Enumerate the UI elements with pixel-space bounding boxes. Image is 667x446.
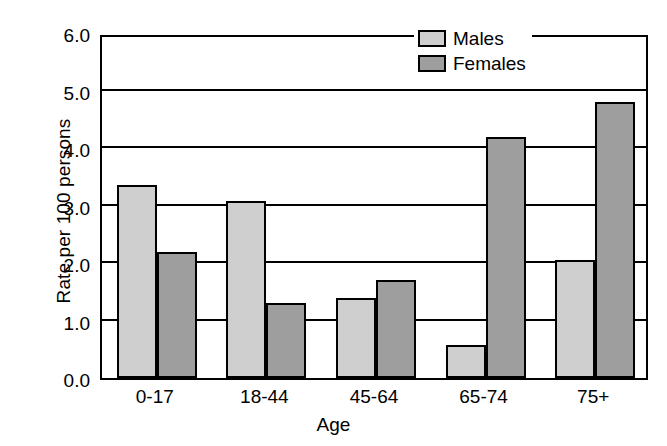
- bar-group: [102, 37, 212, 378]
- y-tick-label: 6.0: [38, 26, 90, 45]
- bar-chart: Rate per 100 persons 0.01.02.03.04.05.06…: [0, 0, 667, 446]
- bar-males-0-17: [117, 185, 157, 378]
- bar-group: [321, 37, 431, 378]
- y-tick-label: 3.0: [38, 198, 90, 217]
- y-tick-label: 1.0: [38, 313, 90, 332]
- x-axis-title: Age: [0, 414, 667, 436]
- x-tick-label: 75+: [577, 386, 609, 408]
- x-tick-label: 45-64: [350, 386, 399, 408]
- legend-swatch-females-icon: [418, 55, 446, 72]
- bar-group: [540, 37, 650, 378]
- bar-males-65-74: [446, 345, 486, 378]
- bar-males-75+: [555, 260, 595, 378]
- legend-swatch-males-icon: [418, 30, 446, 47]
- bar-females-75+: [595, 102, 635, 378]
- legend-item-males: Males: [418, 26, 526, 51]
- plot-area: [100, 35, 648, 380]
- legend-item-females: Females: [418, 51, 526, 76]
- bar-females-18-44: [266, 303, 306, 378]
- y-tick-label: 5.0: [38, 83, 90, 102]
- legend: Males Females: [414, 24, 532, 79]
- y-tick-label: 0.0: [38, 371, 90, 390]
- x-tick-label: 65-74: [459, 386, 508, 408]
- bar-males-18-44: [226, 201, 266, 378]
- bar-group: [212, 37, 322, 378]
- y-tick-label: 4.0: [38, 141, 90, 160]
- bar-males-45-64: [336, 298, 376, 379]
- y-tick-label: 2.0: [38, 256, 90, 275]
- x-tick-label: 0-17: [136, 386, 174, 408]
- legend-label-females: Females: [453, 54, 526, 73]
- bar-females-45-64: [376, 280, 416, 378]
- bar-females-65-74: [486, 137, 526, 379]
- legend-label-males: Males: [453, 29, 504, 48]
- bar-group: [431, 37, 541, 378]
- bar-females-0-17: [157, 252, 197, 379]
- x-tick-label: 18-44: [240, 386, 289, 408]
